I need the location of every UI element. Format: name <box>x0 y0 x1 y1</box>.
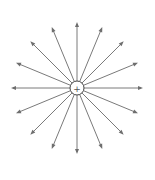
positive-charge: + <box>70 81 84 95</box>
charge-sign: + <box>73 84 81 94</box>
field-line <box>18 91 71 113</box>
arrowhead-icon <box>75 149 79 154</box>
field-line <box>53 29 75 82</box>
arrowhead-icon <box>133 109 138 113</box>
field-line <box>82 93 122 133</box>
arrowhead-icon <box>52 144 56 149</box>
arrowhead-icon <box>98 144 102 149</box>
arrowhead-icon <box>138 86 143 90</box>
field-line <box>53 94 75 147</box>
arrowhead-icon <box>16 109 21 113</box>
field-line <box>32 43 72 83</box>
field-line <box>18 64 71 86</box>
field-line <box>80 29 102 82</box>
field-line <box>82 43 122 83</box>
arrowhead-icon <box>16 63 21 67</box>
field-line <box>83 64 136 86</box>
arrowhead-icon <box>133 63 138 67</box>
field-line <box>32 93 72 133</box>
arrowhead-icon <box>11 86 16 90</box>
field-line <box>80 94 102 147</box>
field-diagram: + <box>0 0 155 180</box>
field-line <box>83 91 136 113</box>
arrowhead-icon <box>52 27 56 32</box>
arrowhead-icon <box>75 22 79 27</box>
arrowhead-icon <box>98 27 102 32</box>
